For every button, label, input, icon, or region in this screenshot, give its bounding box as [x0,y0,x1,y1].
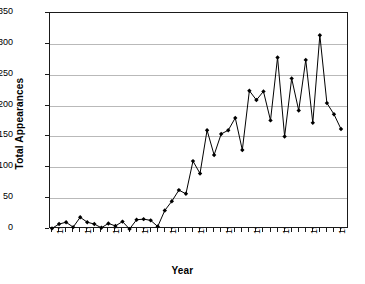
y-axis-title: Total Appearances [14,59,25,189]
y-tick-label: 100 [0,160,13,170]
data-point [282,134,286,138]
y-tick-mark [45,228,49,229]
line-chart: Total Appearances Year 05010015020025030… [0,0,365,284]
data-point [92,222,96,226]
data-line [52,35,341,229]
data-point [106,221,110,225]
data-point [57,222,61,226]
data-point [233,116,237,120]
data-series-layer [50,13,349,229]
data-point [113,224,117,228]
y-tick-label: 50 [0,191,13,201]
y-tick-label: 0 [0,222,13,232]
data-point [275,55,279,59]
y-tick-label: 200 [0,99,13,109]
data-point [318,33,322,37]
data-point [311,121,315,125]
data-point [289,76,293,80]
data-point [191,159,195,163]
data-point [240,148,244,152]
y-tick-label: 250 [0,68,13,78]
data-point [198,171,202,175]
x-axis-title: Year [0,265,365,276]
y-tick-label: 150 [0,129,13,139]
data-point [339,127,343,131]
data-point [141,217,145,221]
data-point [212,153,216,157]
data-markers [50,33,343,231]
data-point [304,58,308,62]
data-point [297,108,301,112]
data-point [268,118,272,122]
y-tick-label: 300 [0,37,13,47]
data-point [226,128,230,132]
data-point [219,132,223,136]
data-point [184,192,188,196]
plot-area [49,12,348,228]
data-point [205,128,209,132]
y-tick-label: 350 [0,6,13,16]
